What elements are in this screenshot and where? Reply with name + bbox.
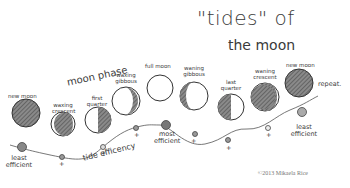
phase-label-waning-crescent: waning crescent [250,69,280,80]
plus-marker-1: + [59,161,64,168]
least-efficient-label-1: least efficient [4,155,34,168]
moon-full-moon [147,75,173,101]
plus-marker-6: + [266,132,271,139]
phase-label-full-moon: full moon [145,64,171,70]
moon-waxing-gibbous [112,87,140,115]
title-line-2: the moon [228,38,295,52]
least-efficient-label-2: least efficient [289,124,319,137]
phase-label-new-moon-2: new moon [286,63,315,69]
copyright-credit: ©2013 Mikaela Rice [258,170,308,176]
moon-waxing-crescent [51,112,75,136]
moon-first-quarter [85,107,111,133]
phase-label-new-moon-1: new moon [8,94,37,100]
plus-marker-3: + [134,132,139,139]
moon-last-quarter [218,94,244,120]
moon-waning-gibbous [180,82,208,110]
phase-label-waning-gibbous: waning gibbous [181,66,207,77]
plus-marker-5: + [226,145,231,152]
title-line-1: "tides" of [197,8,295,28]
phase-label-waxing-crescent: waxing crescent [52,103,74,114]
moon-waning-crescent [251,83,279,111]
moon-new-moon-2 [285,69,313,97]
repeat-label: repeat. [318,81,341,88]
moon-new-moon-1 [12,99,40,127]
most-efficient-label: most efficient [154,131,180,144]
phase-label-last-quarter: last quarter [220,80,242,91]
plus-marker-4: + [191,138,196,145]
diagram-canvas [0,0,350,188]
phase-label-waxing-gibbous: waxing gibbous [114,73,138,84]
phase-label-first-quarter: first quarter [86,96,108,107]
